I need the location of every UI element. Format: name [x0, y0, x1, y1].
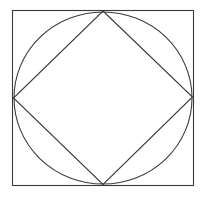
- figure-background: [0, 0, 202, 198]
- geometric-figure: [0, 0, 202, 198]
